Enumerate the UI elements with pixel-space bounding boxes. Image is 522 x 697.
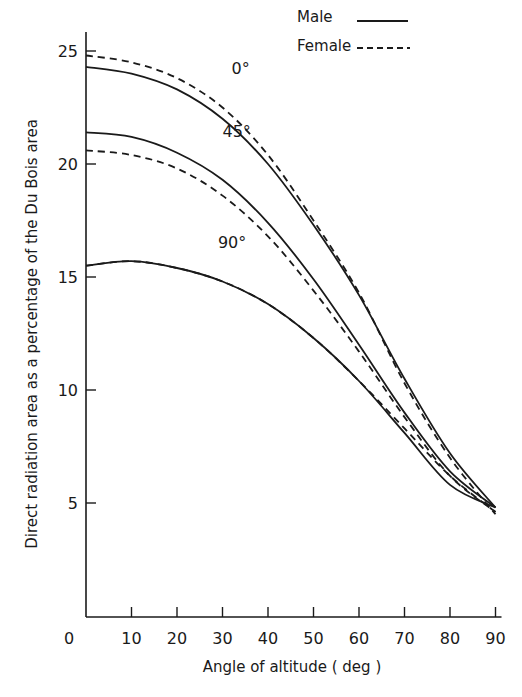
x-tick-label: 40: [258, 629, 278, 648]
legend: Male Female: [297, 8, 410, 55]
curve-annotations: 0°45°90°: [218, 59, 251, 252]
curve-annotation: 90°: [218, 233, 246, 252]
legend-label-female: Female: [297, 37, 351, 55]
chart: 0102030405060708090510152025 0°45°90° An…: [0, 0, 522, 697]
x-tick-label: 20: [167, 629, 187, 648]
y-tick-label: 20: [58, 155, 78, 174]
curves: [86, 56, 496, 515]
curve-annotation: 45°: [223, 122, 251, 141]
y-tick-label: 5: [68, 494, 78, 513]
y-axis-label: Direct radiation area as a percentage of…: [23, 119, 41, 549]
y-tick-label: 10: [58, 381, 78, 400]
x-tick-label: 10: [121, 629, 141, 648]
series-line: [86, 56, 496, 515]
series-line: [86, 261, 496, 512]
series-line: [86, 150, 496, 512]
y-tick-label: 15: [58, 268, 78, 287]
x-tick-label: 50: [303, 629, 323, 648]
x-tick-label: 0: [64, 629, 74, 648]
curve-annotation: 0°: [232, 59, 250, 78]
x-tick-label: 60: [349, 629, 369, 648]
series-line: [86, 67, 496, 508]
x-axis-label: Angle of altitude ( deg ): [203, 658, 382, 676]
legend-label-male: Male: [297, 8, 333, 26]
x-tick-label: 90: [485, 629, 505, 648]
x-tick-label: 30: [212, 629, 232, 648]
axes: 0102030405060708090510152025: [58, 32, 506, 648]
x-tick-label: 70: [394, 629, 414, 648]
series-line: [86, 261, 496, 507]
x-tick-label: 80: [440, 629, 460, 648]
y-tick-label: 25: [58, 42, 78, 61]
